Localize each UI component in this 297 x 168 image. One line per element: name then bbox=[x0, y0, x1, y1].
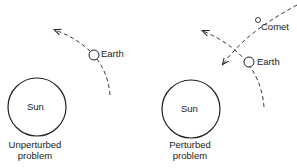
sun-label: Sun bbox=[27, 101, 44, 112]
caption: Perturbed problem bbox=[160, 139, 220, 161]
earth-circle bbox=[89, 50, 99, 60]
sun-label: Sun bbox=[181, 103, 198, 114]
earth-circle bbox=[244, 57, 254, 67]
earth-label: Earth bbox=[101, 48, 124, 59]
caption-line-1: Unperturbed bbox=[2, 139, 68, 150]
earth-label: Earth bbox=[257, 56, 280, 67]
caption: Unperturbed problem bbox=[2, 139, 68, 161]
caption-line-2: problem bbox=[160, 150, 220, 161]
comet-label: Comet bbox=[261, 21, 289, 32]
comet-circle bbox=[256, 18, 261, 23]
caption-line-2: problem bbox=[2, 150, 68, 161]
unperturbed-panel bbox=[8, 30, 110, 136]
earth-orbit-path bbox=[203, 31, 264, 107]
earth-orbit-path bbox=[55, 30, 110, 95]
caption-line-1: Perturbed bbox=[160, 139, 220, 150]
